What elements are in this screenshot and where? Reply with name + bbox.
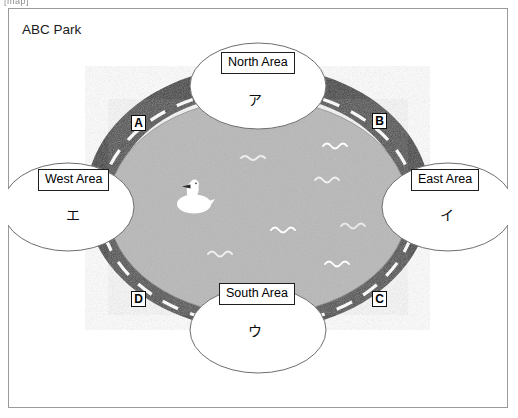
road-marker-c[interactable]: C: [372, 291, 387, 307]
road-marker-a[interactable]: A: [131, 115, 146, 131]
area-kana-south: ウ: [248, 320, 262, 340]
area-label-west[interactable]: West Area: [38, 169, 109, 191]
map-canvas: [map] ABC Park: [0, 0, 518, 418]
road-marker-b[interactable]: B: [372, 113, 387, 129]
area-kana-west: エ: [66, 204, 80, 224]
area-kana-north: ア: [248, 89, 262, 109]
road-marker-d[interactable]: D: [131, 291, 146, 307]
area-kana-east: イ: [440, 204, 454, 224]
cropped-header-artifact: [map]: [4, 0, 29, 6]
area-label-north[interactable]: North Area: [221, 52, 295, 74]
area-label-east[interactable]: East Area: [411, 169, 479, 191]
area-label-south[interactable]: South Area: [219, 283, 295, 305]
